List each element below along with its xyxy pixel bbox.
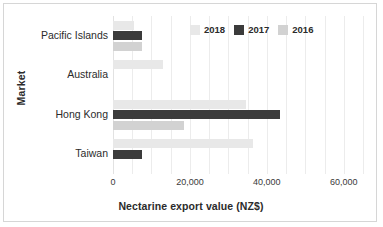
plot-area xyxy=(113,16,363,174)
bar-hong-kong-2017 xyxy=(113,110,280,119)
gridline xyxy=(305,16,306,174)
chart-legend: 201820172016 xyxy=(190,24,313,35)
gridline xyxy=(190,16,191,174)
category-label-pacific-islands: Pacific Islands xyxy=(16,29,108,41)
gridline xyxy=(151,16,152,174)
legend-item-2017[interactable]: 2017 xyxy=(234,24,269,35)
legend-label-2017: 2017 xyxy=(248,24,269,35)
legend-item-2018[interactable]: 2018 xyxy=(190,24,225,35)
bar-pacific-islands-2018 xyxy=(113,21,134,30)
category-label-australia: Australia xyxy=(16,68,108,80)
gridline xyxy=(171,16,172,174)
bar-pacific-islands-2017 xyxy=(113,31,142,40)
legend-swatch-2016 xyxy=(278,25,288,35)
legend-label-2016: 2016 xyxy=(292,24,313,35)
gridline xyxy=(363,16,364,174)
x-tick-label: 20,000 xyxy=(176,177,204,187)
gridline xyxy=(286,16,287,174)
bar-hong-kong-2018 xyxy=(113,100,246,109)
gridline xyxy=(248,16,249,174)
gridline xyxy=(267,16,268,174)
x-axis-tick-labels: 020,00040,00060,000 xyxy=(113,177,363,193)
bar-australia-2018 xyxy=(113,60,163,69)
bar-hong-kong-2016 xyxy=(113,121,184,130)
gridline xyxy=(344,16,345,174)
legend-swatch-2017 xyxy=(234,25,244,35)
x-tick-label: 0 xyxy=(110,177,115,187)
chart-frame: Market Pacific IslandsAustraliaHong Kong… xyxy=(3,3,377,222)
x-tick-label: 40,000 xyxy=(253,177,281,187)
x-tick-label: 60,000 xyxy=(330,177,358,187)
category-label-hong-kong: Hong Kong xyxy=(16,108,108,120)
legend-swatch-2018 xyxy=(190,25,200,35)
gridline xyxy=(325,16,326,174)
gridline xyxy=(209,16,210,174)
bar-taiwan-2018 xyxy=(113,139,253,148)
legend-label-2018: 2018 xyxy=(204,24,225,35)
legend-item-2016[interactable]: 2016 xyxy=(278,24,313,35)
gridline xyxy=(228,16,229,174)
category-label-taiwan: Taiwan xyxy=(16,147,108,159)
category-axis-labels: Pacific IslandsAustraliaHong KongTaiwan xyxy=(12,4,108,184)
bar-pacific-islands-2016 xyxy=(113,42,142,51)
x-axis-title: Nectarine export value (NZ$) xyxy=(4,200,378,212)
bar-taiwan-2017 xyxy=(113,150,142,159)
